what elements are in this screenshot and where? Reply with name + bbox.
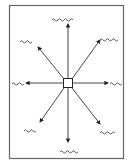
center-square bbox=[64, 79, 73, 88]
radial-diagram: [illegible scribble][illegible scribble]… bbox=[0, 0, 131, 165]
